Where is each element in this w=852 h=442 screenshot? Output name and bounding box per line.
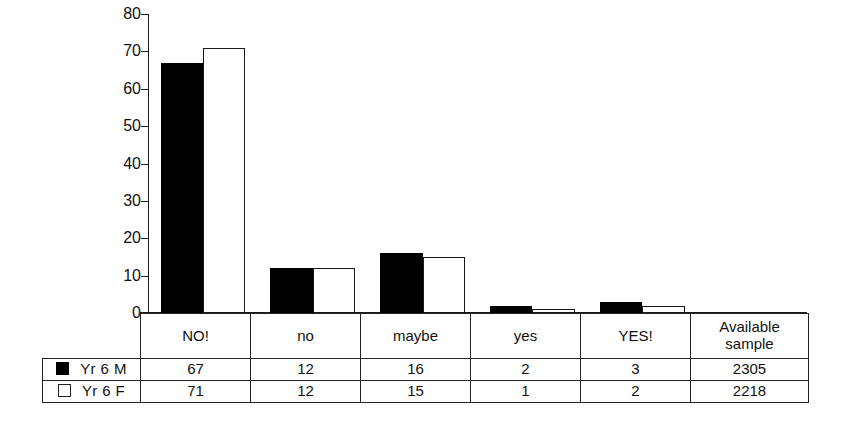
bar-group-no [258,14,368,313]
chart-figure: 01020304050607080 NO! no maybe yes [0,0,852,442]
header-cell-maybe: maybe [361,314,471,359]
table-row: Yr 6 F 71 12 15 1 2 2218 [43,381,809,403]
y-tick-20 [141,238,148,239]
cell-yr6m-maybe: 16 [361,359,471,381]
bar-group-yes [478,14,588,313]
cell-yr6m-yes: 2 [471,359,581,381]
header-cell-available-sample: Available sample [691,314,809,359]
legend-label-yr6m: Yr 6 M [80,361,127,378]
cell-yr6m-no-exclaim: 67 [141,359,251,381]
y-tick-label-30: 30 [123,193,141,209]
bar-yr6m-maybe [380,253,422,313]
cell-yr6m-yes-exclaim: 3 [581,359,691,381]
bar-yr6m-no [270,268,312,313]
y-tick-label-60: 60 [123,81,141,97]
header-cell-yes-exclaim: YES! [581,314,691,359]
y-tick-label-80: 80 [123,6,141,22]
y-tick-label-70: 70 [123,43,141,59]
y-tick-label-40: 40 [123,156,141,172]
available-sample-line2: sample [694,336,805,353]
cell-yr6f-maybe: 15 [361,381,471,403]
bar-group-yes [587,14,697,313]
y-tick-40 [141,164,148,165]
bar-group-no [148,14,258,313]
header-cell-no: no [251,314,361,359]
legend-item-yr6f: Yr 6 F [43,381,141,403]
y-tick-label-50: 50 [123,118,141,134]
y-tick-50 [141,126,148,127]
y-tick-30 [141,201,148,202]
header-corner-cell [43,314,141,359]
header-cell-no-exclaim: NO! [141,314,251,359]
bar-yr6f-no [203,48,245,313]
cell-yr6f-yes-exclaim: 2 [581,381,691,403]
bar-yr6m-yes [490,306,532,313]
y-tick-label-10: 10 [123,268,141,284]
legend-and-table: NO! no maybe yes YES! Available sample Y… [42,313,808,409]
bar-group-maybe [368,14,478,313]
cell-yr6m-no: 12 [251,359,361,381]
bar-yr6f-yes [642,306,684,313]
cell-yr6f-yes: 1 [471,381,581,403]
y-tick-60 [141,89,148,90]
cell-yr6f-no-exclaim: 71 [141,381,251,403]
legend-swatch-filled-icon [56,362,69,375]
legend-item-yr6m: Yr 6 M [43,359,141,381]
bar-yr6f-no [313,268,355,313]
legend-label-yr6f: Yr 6 F [82,383,125,400]
y-tick-label-20: 20 [123,230,141,246]
available-sample-line1: Available [694,319,805,336]
cell-yr6f-no: 12 [251,381,361,403]
data-table: NO! no maybe yes YES! Available sample Y… [42,313,809,403]
cell-yr6m-sample: 2305 [691,359,809,381]
cell-yr6f-sample: 2218 [691,381,809,403]
table-row: Yr 6 M 67 12 16 2 3 2305 [43,359,809,381]
table-header-row: NO! no maybe yes YES! Available sample [43,314,809,359]
y-tick-80 [141,14,148,15]
legend-swatch-open-icon [58,384,71,397]
header-cell-yes: yes [471,314,581,359]
y-tick-70 [141,51,148,52]
plot-area: 01020304050607080 [148,14,807,313]
bar-yr6m-no [161,63,203,313]
bar-yr6m-yes [600,302,642,313]
bar-yr6f-maybe [423,257,465,313]
y-tick-10 [141,276,148,277]
